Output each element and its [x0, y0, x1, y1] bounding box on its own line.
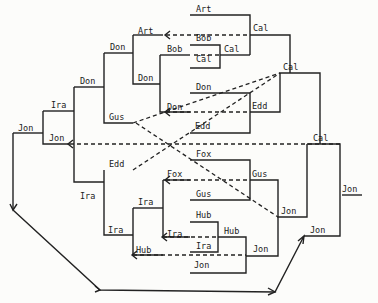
player-label-cal-b: Cal — [224, 44, 239, 54]
player-label-gus-a: Gus — [109, 112, 124, 122]
player-label-cal-c: Cal — [253, 23, 268, 33]
player-label-gus-b: Gus — [252, 169, 267, 179]
player-label-cal-e: Cal — [313, 133, 328, 143]
player-label-bob-b: Bob — [167, 44, 182, 54]
player-label-cal-d: Cal — [283, 62, 298, 72]
player-label-jon-f: Jon — [310, 225, 325, 235]
player-label-jon-g: Jon — [194, 260, 209, 270]
player-label-edd-c: Edd — [109, 159, 124, 169]
player-label-ira-c: Ira — [138, 197, 153, 207]
player-label-ira-d: Ira — [167, 229, 182, 239]
player-label-fox-b: Fox — [167, 169, 182, 179]
player-label-fox-a: Fox — [196, 149, 211, 159]
player-label-don-d: Don — [80, 76, 95, 86]
player-label-don-e: Don — [167, 102, 182, 112]
player-label-don-b: Don — [138, 73, 153, 83]
player-label-jon-c: Jon — [342, 184, 357, 194]
player-label-bob-a: Bob — [196, 33, 211, 43]
player-label-cal-a: Cal — [196, 54, 211, 64]
player-label-don-a: Don — [110, 42, 125, 52]
player-label-art-top: Art — [196, 4, 211, 14]
player-label-edd-b: Edd — [195, 121, 210, 131]
player-labels: ArtArtBobBobCalCalCalDonDonDonDonDonEddE… — [18, 4, 357, 270]
player-label-hub-a: Hub — [196, 210, 211, 220]
player-label-jon-b: Jon — [49, 133, 64, 143]
player-label-gus-c: Gus — [196, 189, 211, 199]
player-label-ira-a: Ira — [51, 100, 66, 110]
bracket-lines — [10, 15, 362, 295]
player-label-edd-a: Edd — [252, 101, 267, 111]
player-label-ira-b: Ira — [80, 191, 95, 201]
player-label-ira-e: Ira — [108, 225, 123, 235]
player-label-art-left: Art — [138, 26, 153, 36]
player-label-ira-f: Ira — [196, 241, 211, 251]
player-label-don-c: Don — [196, 82, 211, 92]
player-label-jon-d: Jon — [281, 206, 296, 216]
player-label-jon-e: Jon — [253, 244, 268, 254]
player-label-jon-a: Jon — [18, 123, 33, 133]
player-label-hub-c: Hub — [136, 245, 151, 255]
tournament-bracket-diagram: ArtArtBobBobCalCalCalDonDonDonDonDonEddE… — [0, 0, 378, 303]
player-label-hub-b: Hub — [224, 226, 239, 236]
